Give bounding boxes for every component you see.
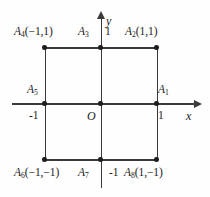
point-dot-a7 xyxy=(98,157,103,162)
point-dot-a8 xyxy=(154,157,159,162)
point-name-a5: A5 xyxy=(27,83,38,95)
point-dot-a4 xyxy=(42,45,47,50)
point-name-a7: A7 xyxy=(78,166,89,178)
point-coords-a6: (−1,−1) xyxy=(25,166,59,178)
point-dot-a5 xyxy=(42,101,47,106)
point-label-a7: A7 xyxy=(78,167,89,179)
point-dot-origin xyxy=(98,101,103,106)
x-axis-label: x xyxy=(186,110,191,122)
point-dot-a1 xyxy=(154,101,159,106)
point-subscript-a2: 2 xyxy=(132,30,136,39)
point-coords-a8: (1,−1) xyxy=(135,166,163,178)
point-subscript-a7: 7 xyxy=(85,171,89,180)
point-name-a4: A4 xyxy=(14,25,25,37)
point-dot-a2 xyxy=(154,45,159,50)
tick-label-y-negative: -1 xyxy=(109,167,119,179)
point-name-a2: A2 xyxy=(125,25,136,37)
point-dot-a6 xyxy=(42,157,47,162)
y-axis-arrowhead xyxy=(97,11,105,19)
point-label-a5: A5 xyxy=(27,84,38,96)
point-label-a3: A3 xyxy=(78,26,89,38)
point-coords-a2: (1,1) xyxy=(136,25,158,37)
tick-label-x-negative: -1 xyxy=(29,110,39,122)
x-axis-arrowhead xyxy=(194,100,202,108)
x-axis-line xyxy=(12,103,196,105)
point-label-a8: A8(1,−1) xyxy=(124,167,163,179)
tick-label-x-positive: 1 xyxy=(158,110,164,122)
point-name-a8: A8 xyxy=(124,166,135,178)
point-subscript-a8: 8 xyxy=(131,171,135,180)
point-subscript-a5: 5 xyxy=(34,88,38,97)
point-label-a1: A1 xyxy=(158,84,169,96)
point-name-a3: A3 xyxy=(78,25,89,37)
origin-label: O xyxy=(87,110,96,122)
coordinate-diagram: A4(−1,1) A3 A2(1,1) A5 A1 A6(−1,−1) A7 A… xyxy=(0,0,210,197)
point-name-a6: A6 xyxy=(14,166,25,178)
point-dot-a3 xyxy=(98,45,103,50)
point-label-a4: A4(−1,1) xyxy=(14,26,53,38)
point-name-a1: A1 xyxy=(158,83,169,95)
y-axis-label: y xyxy=(106,15,111,27)
point-subscript-a4: 4 xyxy=(21,30,25,39)
point-label-a6: A6(−1,−1) xyxy=(14,167,59,179)
point-subscript-a6: 6 xyxy=(21,171,25,180)
point-subscript-a1: 1 xyxy=(165,88,169,97)
point-subscript-a3: 3 xyxy=(85,30,89,39)
point-coords-a4: (−1,1) xyxy=(25,25,53,37)
point-label-a2: A2(1,1) xyxy=(125,26,157,38)
